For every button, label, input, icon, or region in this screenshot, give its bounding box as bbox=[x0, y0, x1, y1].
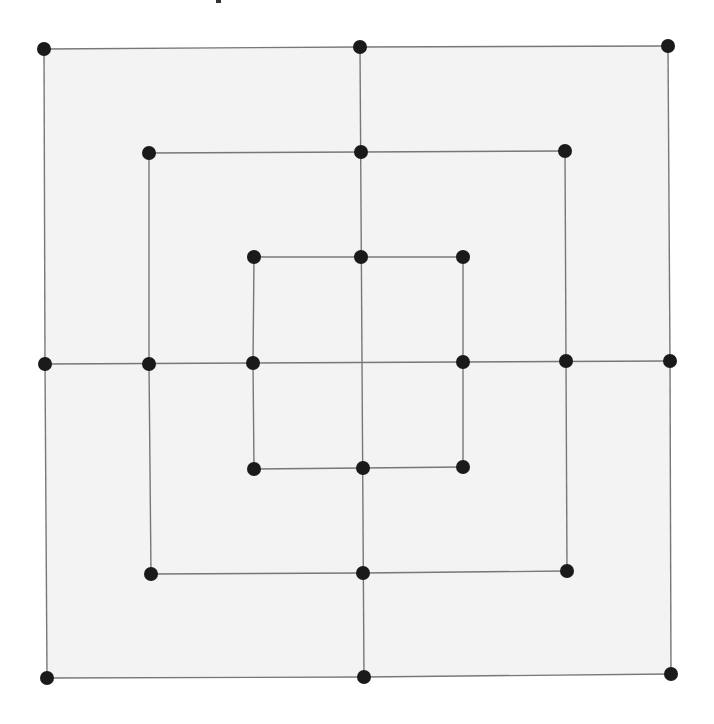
board-point-middle-2[interactable] bbox=[558, 144, 572, 158]
inner-ring-edge bbox=[254, 468, 363, 469]
board-point-inner-6[interactable] bbox=[247, 462, 261, 476]
board-point-middle-4[interactable] bbox=[560, 564, 574, 578]
board-point-inner-4[interactable] bbox=[456, 460, 470, 474]
outer-ring-edge bbox=[360, 46, 668, 47]
board-point-outer-6[interactable] bbox=[40, 671, 54, 685]
board-point-outer-2[interactable] bbox=[661, 39, 675, 53]
board-point-middle-0[interactable] bbox=[142, 146, 156, 160]
outer-ring-edge bbox=[44, 49, 45, 364]
board-point-inner-5[interactable] bbox=[356, 461, 370, 475]
board-point-outer-3[interactable] bbox=[663, 354, 677, 368]
board-point-outer-4[interactable] bbox=[664, 667, 678, 681]
board-point-inner-1[interactable] bbox=[354, 250, 368, 264]
board-point-inner-7[interactable] bbox=[246, 356, 260, 370]
inner-ring-edge bbox=[363, 467, 463, 468]
inner-ring-edge bbox=[253, 363, 254, 469]
middle-ring-edge bbox=[149, 152, 361, 153]
board-point-middle-3[interactable] bbox=[559, 354, 573, 368]
board-point-outer-1[interactable] bbox=[353, 40, 367, 54]
board-point-inner-0[interactable] bbox=[247, 250, 261, 264]
board-point-middle-7[interactable] bbox=[142, 357, 156, 371]
morris-board bbox=[0, 0, 714, 724]
board-point-middle-5[interactable] bbox=[356, 566, 370, 580]
middle-ring-edge bbox=[566, 361, 567, 571]
middle-ring-edge bbox=[565, 151, 566, 361]
outer-ring-edge bbox=[670, 361, 671, 674]
board-point-inner-3[interactable] bbox=[456, 355, 470, 369]
board-point-outer-5[interactable] bbox=[357, 670, 371, 684]
middle-ring-edge bbox=[361, 151, 565, 152]
board-point-outer-7[interactable] bbox=[38, 357, 52, 371]
board-point-middle-6[interactable] bbox=[144, 567, 158, 581]
middle-ring-edge bbox=[151, 573, 363, 574]
board-point-outer-0[interactable] bbox=[37, 42, 51, 56]
outer-ring-edge bbox=[47, 677, 364, 678]
board-point-inner-2[interactable] bbox=[456, 250, 470, 264]
board-point-middle-1[interactable] bbox=[354, 145, 368, 159]
inner-ring-edge bbox=[253, 257, 254, 363]
